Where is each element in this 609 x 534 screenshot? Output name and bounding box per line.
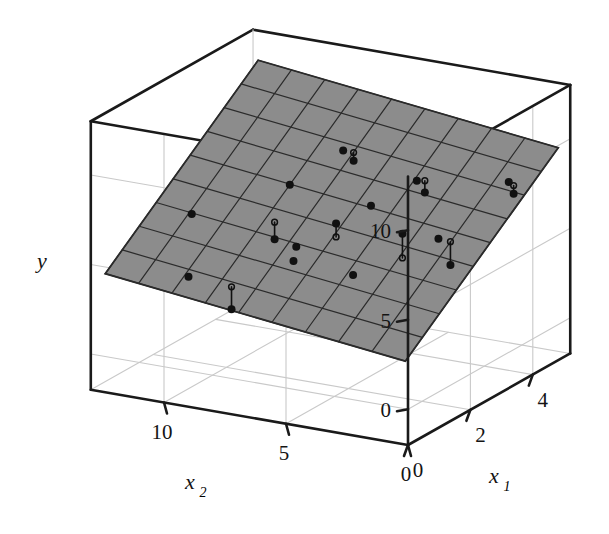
x1-tick-label-4: 4 bbox=[538, 388, 549, 412]
x2-tick-label-0: 0 bbox=[401, 462, 412, 486]
regression-plane bbox=[105, 60, 558, 361]
data-point bbox=[286, 181, 294, 189]
data-point bbox=[289, 257, 297, 265]
y-tick-label-5: 5 bbox=[381, 309, 392, 333]
x2-tick-label-5: 5 bbox=[279, 441, 290, 465]
data-point bbox=[350, 157, 358, 165]
y-tick-label-0: 0 bbox=[381, 398, 392, 422]
x1-axis-title-subscript: 1 bbox=[504, 479, 511, 494]
x2-tick-label-10: 10 bbox=[152, 420, 173, 444]
data-point bbox=[510, 190, 518, 198]
data-point bbox=[228, 305, 236, 313]
data-point bbox=[339, 146, 347, 154]
x2-axis-title: x bbox=[184, 469, 195, 494]
data-point bbox=[367, 202, 375, 210]
y-axis-title: y bbox=[35, 248, 47, 273]
x1-tick-label-0: 0 bbox=[413, 458, 424, 482]
data-point bbox=[421, 188, 429, 196]
data-point bbox=[446, 261, 454, 269]
x1-axis-title: x bbox=[488, 463, 499, 488]
data-point bbox=[413, 177, 421, 185]
data-point bbox=[188, 210, 196, 218]
plot-canvas: 0 5 10 0 5 10 0 2 4 y x 2 x 1 bbox=[0, 0, 609, 534]
x2-axis-title-subscript: 2 bbox=[200, 485, 207, 500]
x1-tick-label-2: 2 bbox=[475, 423, 486, 447]
data-point bbox=[271, 235, 279, 243]
y-tick-label-10: 10 bbox=[370, 219, 391, 243]
data-point bbox=[292, 243, 300, 251]
data-point bbox=[349, 271, 357, 279]
data-point bbox=[434, 235, 442, 243]
data-point bbox=[332, 220, 340, 228]
figure-3d-regression-plane: 0 5 10 0 5 10 0 2 4 y x 2 x 1 bbox=[0, 0, 609, 534]
data-point bbox=[184, 273, 192, 281]
